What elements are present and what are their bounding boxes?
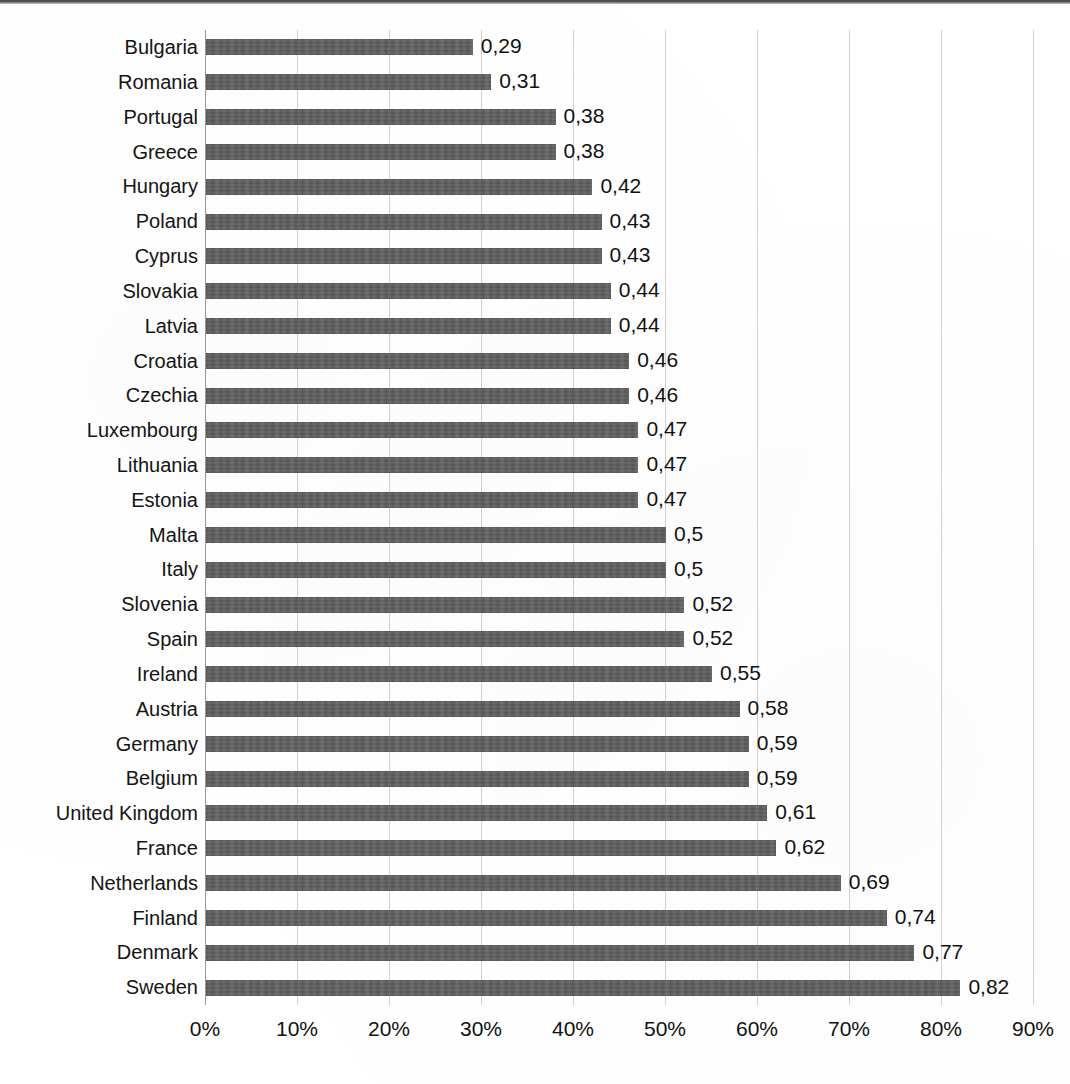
category-label-row: Belgium [0, 761, 198, 795]
category-label: Poland [136, 211, 198, 231]
bar [206, 597, 684, 613]
bar [206, 318, 611, 334]
category-label-row: Romania [0, 65, 198, 99]
bar [206, 875, 841, 891]
category-label-row: United Kingdom [0, 796, 198, 830]
category-label: Ireland [137, 664, 198, 684]
category-label-row: Netherlands [0, 866, 198, 900]
bar-value-label: 0,62 [784, 836, 825, 857]
bar [206, 945, 914, 961]
category-label: Cyprus [135, 246, 198, 266]
bar [206, 736, 749, 752]
bar-value-label: 0,46 [637, 349, 678, 370]
bar-value-label: 0,59 [757, 732, 798, 753]
category-label: France [136, 838, 198, 858]
category-label-row: Latvia [0, 309, 198, 343]
bar-value-label: 0,77 [922, 941, 963, 962]
category-label-row: Denmark [0, 935, 198, 969]
bar-value-label: 0,38 [564, 140, 605, 161]
category-label-row: Lithuania [0, 448, 198, 482]
x-tick-label: 90% [1012, 1018, 1054, 1039]
bar [206, 39, 473, 55]
bar-value-label: 0,55 [720, 662, 761, 683]
bar [206, 144, 556, 160]
category-label: Romania [118, 72, 198, 92]
category-label: Luxembourg [87, 420, 198, 440]
gridline [481, 30, 482, 1005]
category-label: Germany [116, 734, 198, 754]
category-label: Finland [132, 908, 198, 928]
bar-value-label: 0,43 [610, 210, 651, 231]
category-axis: BulgariaRomaniaPortugalGreeceHungaryPola… [0, 30, 198, 1005]
bar [206, 283, 611, 299]
category-label: Greece [132, 142, 198, 162]
category-label-row: Estonia [0, 483, 198, 517]
category-label: Spain [147, 629, 198, 649]
category-label: Netherlands [90, 873, 198, 893]
category-label-row: Finland [0, 901, 198, 935]
bar-value-label: 0,5 [674, 558, 703, 579]
x-tick-label: 20% [368, 1018, 410, 1039]
bar [206, 422, 638, 438]
bar [206, 492, 638, 508]
category-label: Croatia [134, 351, 198, 371]
bar-value-label: 0,82 [968, 976, 1009, 997]
category-label: Denmark [117, 942, 198, 962]
bar-value-label: 0,61 [775, 801, 816, 822]
category-label: Estonia [131, 490, 198, 510]
category-label-row: Austria [0, 692, 198, 726]
bar [206, 840, 776, 856]
gridline [757, 30, 758, 1005]
category-label-row: Ireland [0, 657, 198, 691]
category-label: Latvia [145, 316, 198, 336]
category-label-row: Italy [0, 552, 198, 586]
category-label-row: France [0, 831, 198, 865]
gridline [389, 30, 390, 1005]
gridline [1033, 30, 1034, 1005]
category-label: Slovenia [121, 594, 198, 614]
bar-value-label: 0,74 [895, 906, 936, 927]
bar-value-label: 0,43 [610, 244, 651, 265]
bar [206, 74, 491, 90]
category-label-row: Slovenia [0, 587, 198, 621]
category-label-row: Czechia [0, 378, 198, 412]
category-label-row: Spain [0, 622, 198, 656]
bar-value-label: 0,46 [637, 384, 678, 405]
x-tick-label: 40% [552, 1018, 594, 1039]
gridline [297, 30, 298, 1005]
category-label: United Kingdom [56, 803, 198, 823]
category-label-row: Sweden [0, 970, 198, 1004]
bar-value-label: 0,31 [499, 70, 540, 91]
gridline [849, 30, 850, 1005]
category-label: Slovakia [122, 281, 198, 301]
bar [206, 457, 638, 473]
bar-value-label: 0,47 [646, 453, 687, 474]
bar [206, 353, 629, 369]
bar [206, 527, 666, 543]
category-label-row: Hungary [0, 169, 198, 203]
x-tick-label: 50% [644, 1018, 686, 1039]
bar-value-label: 0,59 [757, 767, 798, 788]
category-label-row: Croatia [0, 343, 198, 377]
bar [206, 980, 960, 996]
x-axis-tick-labels: 0%10%20%30%40%50%60%70%80%90% [0, 1018, 1070, 1058]
category-label-row: Luxembourg [0, 413, 198, 447]
bar [206, 388, 629, 404]
category-label-row: Slovakia [0, 274, 198, 308]
bar-value-label: 0,47 [646, 488, 687, 509]
category-label: Lithuania [117, 455, 198, 475]
bar-value-label: 0,52 [692, 593, 733, 614]
bar [206, 805, 767, 821]
bar-value-label: 0,44 [619, 314, 660, 335]
category-label-row: Greece [0, 134, 198, 168]
category-label: Portugal [124, 107, 199, 127]
category-label: Bulgaria [125, 37, 198, 57]
x-tick-label: 70% [828, 1018, 870, 1039]
bar-value-label: 0,42 [600, 175, 641, 196]
bar [206, 179, 592, 195]
category-label-row: Poland [0, 204, 198, 238]
bar-value-label: 0,44 [619, 279, 660, 300]
category-label: Sweden [126, 977, 198, 997]
bar-value-label: 0,5 [674, 523, 703, 544]
x-tick-label: 30% [460, 1018, 502, 1039]
